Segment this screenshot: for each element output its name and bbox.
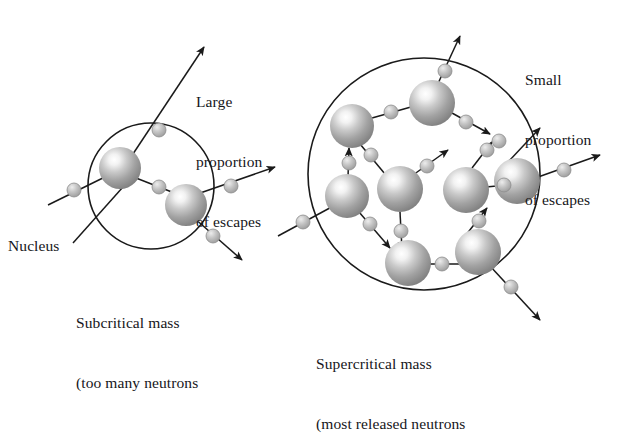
neutron-particle (504, 280, 518, 294)
nucleus-sphere (409, 80, 455, 126)
neutron-particle (438, 64, 452, 78)
neutron-track-midleft-down (359, 212, 390, 248)
neutron-particle (342, 156, 356, 170)
nucleus-sphere (325, 174, 369, 218)
nucleus-sphere (443, 167, 489, 213)
neutron-particle (420, 159, 434, 173)
neutron-particle (296, 215, 310, 229)
label-line: of escapes (196, 212, 262, 232)
neutron-particle (472, 214, 486, 228)
label-large-proportion-of-escapes: Large proportion of escapes (196, 52, 262, 272)
neutron-particle (480, 143, 494, 157)
caption-line: (too many neutrons (76, 373, 198, 393)
neutron-particle (384, 105, 398, 119)
neutron-particle (364, 148, 378, 162)
neutron-particle (152, 123, 166, 137)
neutron-particle (67, 183, 81, 197)
label-line: proportion (196, 152, 262, 172)
caption-subcritical-mass: Subcritical mass (too many neutrons esca… (76, 273, 198, 433)
nucleus-sphere (99, 147, 141, 189)
caption-supercritical-mass: Supercritical mass (most released neutro… (316, 314, 466, 433)
neutron-particle (492, 134, 506, 148)
nucleus-sphere (330, 104, 374, 148)
neutron-particle (152, 180, 166, 194)
label-nucleus: Nucleus (8, 236, 60, 256)
nucleus-sphere (455, 229, 501, 275)
caption-line: Supercritical mass (316, 354, 466, 374)
nucleus-sphere (377, 166, 423, 212)
neutron-particle (363, 217, 377, 231)
neutron-particle (435, 257, 449, 271)
neutron-particle (459, 115, 473, 129)
neutron-particle (394, 224, 408, 238)
fission-diagram: Large proportion of escapes Small propor… (0, 0, 630, 433)
neutron-particle (497, 178, 511, 192)
caption-line: Subcritical mass (76, 313, 198, 333)
label-line: proportion (525, 130, 591, 150)
caption-line: (most released neutrons (316, 414, 466, 433)
label-line: Small (525, 70, 591, 90)
label-line: Large (196, 92, 262, 112)
label-line: of escapes (525, 190, 591, 210)
label-small-proportion-of-escapes: Small proportion of escapes (525, 30, 591, 250)
nucleus-sphere (385, 240, 431, 286)
